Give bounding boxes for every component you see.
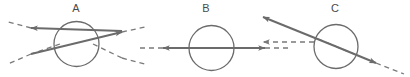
panel-label-c: C <box>331 2 339 14</box>
ray-diagram-canvas: ABC <box>0 0 410 77</box>
panel-label-b: B <box>202 2 210 14</box>
panel-label-a: A <box>72 2 80 14</box>
ray-diagram-figure: ABC <box>0 0 410 77</box>
